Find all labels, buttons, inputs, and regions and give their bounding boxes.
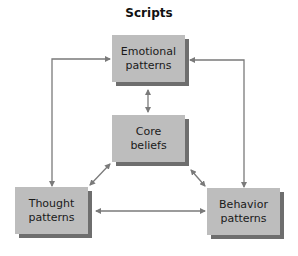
core-beliefs-node: Corebeliefs: [112, 115, 185, 162]
node-label-line1: Emotional: [121, 45, 176, 59]
node-label-line2: patterns: [121, 59, 176, 73]
node-label-line2: beliefs: [130, 139, 166, 153]
behavior-patterns-node: Behaviorpatterns: [207, 188, 280, 235]
node-label-line2: patterns: [219, 212, 268, 226]
thought-patterns-node: Thoughtpatterns: [15, 187, 88, 234]
emotional-patterns-node: Emotionalpatterns: [112, 35, 185, 82]
node-label-line1: Behavior: [219, 198, 268, 212]
node-label-line2: patterns: [28, 211, 74, 225]
node-label-line1: Core: [130, 125, 166, 139]
node-label-line1: Thought: [28, 197, 74, 211]
